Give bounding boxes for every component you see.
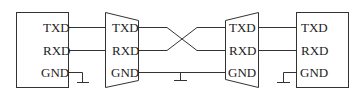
left-device-txd-label: TXD [43,21,70,34]
right-device-rxd-label: RXD [301,44,328,57]
right-device-txd-label: TXD [301,21,328,34]
wire-cross-2 [139,28,226,51]
right-converter-txd-label: TXD [229,21,256,34]
right-converter-gnd-label: GND [228,66,256,79]
left-device-gnd-label: GND [41,66,69,79]
left-converter-txd-label: TXD [112,21,139,34]
left-converter-gnd-label: GND [111,66,139,79]
wire-left-gnd [69,73,83,83]
right-converter-rxd-label: RXD [229,44,256,57]
left-converter-rxd-label: RXD [112,44,139,57]
left-device-rxd-label: RXD [43,44,70,57]
serial-connection-diagram: TXD RXD GND TXD RXD GND TXD RXD GND TXD … [0,0,362,97]
wire-right-gnd [284,73,297,83]
right-device-gnd-label: GND [300,66,328,79]
